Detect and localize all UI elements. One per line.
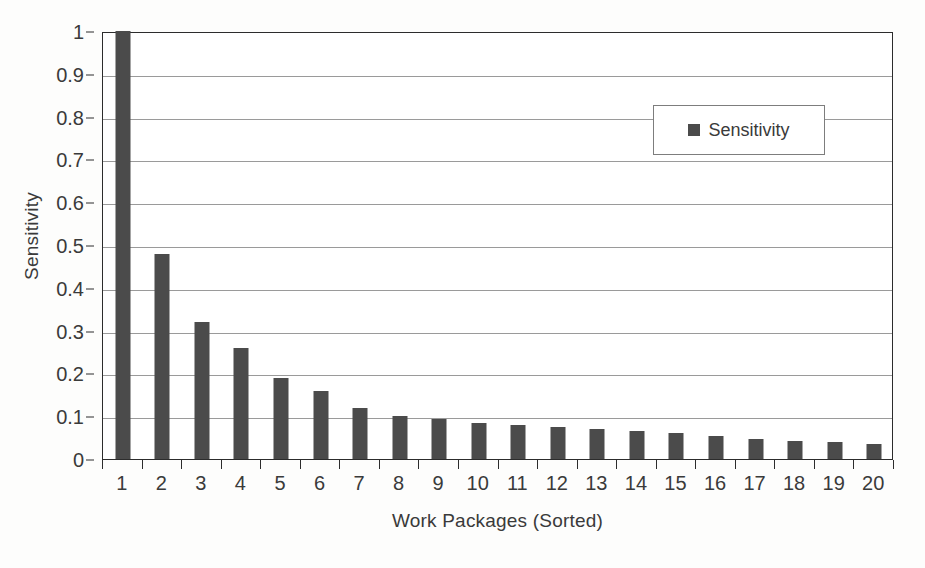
x-tick-mark bbox=[458, 460, 459, 469]
bar[interactable] bbox=[629, 431, 644, 459]
bar[interactable] bbox=[827, 442, 842, 459]
x-tick-mark bbox=[774, 460, 775, 469]
x-tick-mark bbox=[814, 460, 815, 469]
legend-label-sensitivity: Sensitivity bbox=[708, 120, 789, 141]
bar[interactable] bbox=[432, 419, 447, 459]
legend: Sensitivity bbox=[653, 105, 825, 155]
bar[interactable] bbox=[234, 348, 249, 459]
x-tick-label: 17 bbox=[743, 472, 765, 495]
bar[interactable] bbox=[709, 436, 724, 459]
y-tick-mark bbox=[86, 32, 94, 33]
x-tick-label: 9 bbox=[433, 472, 444, 495]
x-axis-tick-labels: 1234567891011121314151617181920 bbox=[102, 472, 893, 502]
bar[interactable] bbox=[353, 408, 368, 459]
bar-slot bbox=[499, 33, 539, 459]
x-tick-mark bbox=[656, 460, 657, 469]
x-tick-label: 18 bbox=[783, 472, 805, 495]
x-tick-label: 8 bbox=[393, 472, 404, 495]
bar[interactable] bbox=[194, 322, 209, 459]
bar-slot bbox=[538, 33, 578, 459]
bar[interactable] bbox=[590, 429, 605, 459]
x-tick-label: 13 bbox=[585, 472, 607, 495]
x-tick-mark bbox=[853, 460, 854, 469]
y-tick-mark bbox=[86, 246, 94, 247]
bar-slot bbox=[696, 33, 736, 459]
chart-figure: Sensitivity 00.10.20.30.40.50.60.70.80.9… bbox=[0, 0, 925, 568]
x-tick-mark bbox=[418, 460, 419, 469]
y-tick-mark bbox=[86, 288, 94, 289]
bar-slot bbox=[143, 33, 183, 459]
y-tick-label: 0.3 bbox=[56, 320, 84, 343]
x-tick-label: 12 bbox=[546, 472, 568, 495]
y-tick-label: 0.5 bbox=[56, 235, 84, 258]
y-tick-label: 0.7 bbox=[56, 149, 84, 172]
bar[interactable] bbox=[867, 444, 882, 459]
bar[interactable] bbox=[748, 439, 763, 459]
y-tick-mark bbox=[86, 331, 94, 332]
y-tick-label: 0 bbox=[73, 449, 84, 472]
y-axis-tick-labels: 00.10.20.30.40.50.60.70.80.91 bbox=[34, 32, 94, 460]
bar[interactable] bbox=[313, 391, 328, 459]
x-tick-mark bbox=[181, 460, 182, 469]
y-tick-mark bbox=[86, 374, 94, 375]
bar[interactable] bbox=[471, 423, 486, 459]
y-tick-mark bbox=[86, 203, 94, 204]
x-tick-label: 7 bbox=[354, 472, 365, 495]
bar-slot bbox=[419, 33, 459, 459]
bar[interactable] bbox=[550, 427, 565, 459]
bar-slot bbox=[380, 33, 420, 459]
plot-area bbox=[102, 32, 893, 460]
bar[interactable] bbox=[788, 441, 803, 459]
bar-slot bbox=[657, 33, 697, 459]
bar[interactable] bbox=[511, 425, 526, 459]
bar[interactable] bbox=[155, 254, 170, 459]
y-tick-mark bbox=[86, 417, 94, 418]
bar-slot bbox=[775, 33, 815, 459]
x-axis-title: Work Packages (Sorted) bbox=[102, 510, 893, 532]
legend-swatch-sensitivity bbox=[688, 124, 700, 136]
bar-slot bbox=[815, 33, 855, 459]
x-tick-mark bbox=[498, 460, 499, 469]
x-tick-mark bbox=[695, 460, 696, 469]
bar-slot bbox=[578, 33, 618, 459]
x-tick-label: 11 bbox=[507, 472, 528, 495]
bar-slot bbox=[222, 33, 262, 459]
bar[interactable] bbox=[115, 31, 130, 459]
x-tick-label: 19 bbox=[823, 472, 845, 495]
x-axis-tick-marks bbox=[102, 460, 893, 472]
y-tick-label: 0.6 bbox=[56, 192, 84, 215]
bar[interactable] bbox=[392, 416, 407, 459]
x-tick-label: 20 bbox=[862, 472, 884, 495]
x-tick-mark bbox=[616, 460, 617, 469]
x-tick-mark bbox=[221, 460, 222, 469]
bar[interactable] bbox=[273, 378, 288, 459]
x-tick-mark bbox=[339, 460, 340, 469]
x-tick-mark bbox=[735, 460, 736, 469]
x-tick-label: 16 bbox=[704, 472, 726, 495]
x-tick-mark bbox=[893, 460, 894, 469]
bar-slot bbox=[854, 33, 894, 459]
y-tick-label: 0.4 bbox=[56, 277, 84, 300]
y-tick-label: 0.2 bbox=[56, 363, 84, 386]
y-tick-mark bbox=[86, 160, 94, 161]
y-tick-label: 1 bbox=[73, 21, 84, 44]
x-tick-mark bbox=[300, 460, 301, 469]
x-tick-label: 14 bbox=[625, 472, 647, 495]
bar-slot bbox=[340, 33, 380, 459]
bar[interactable] bbox=[669, 433, 684, 459]
bar-slot bbox=[182, 33, 222, 459]
x-tick-mark bbox=[577, 460, 578, 469]
bar-slot bbox=[459, 33, 499, 459]
x-tick-mark bbox=[260, 460, 261, 469]
bar-slot bbox=[736, 33, 776, 459]
y-tick-label: 0.9 bbox=[56, 63, 84, 86]
x-tick-label: 5 bbox=[274, 472, 285, 495]
x-tick-label: 4 bbox=[235, 472, 246, 495]
x-tick-mark bbox=[102, 460, 103, 469]
x-tick-label: 15 bbox=[664, 472, 686, 495]
y-tick-mark bbox=[86, 460, 94, 461]
bar-slot bbox=[617, 33, 657, 459]
bar-slot bbox=[103, 33, 143, 459]
x-tick-mark bbox=[142, 460, 143, 469]
x-tick-label: 2 bbox=[156, 472, 167, 495]
